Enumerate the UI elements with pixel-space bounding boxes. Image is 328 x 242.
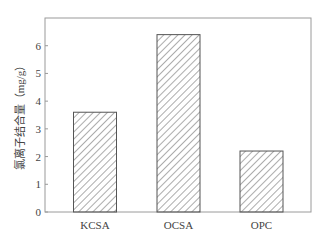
y-axis-ticks: 0123456 (36, 40, 49, 218)
y-tick-label: 1 (36, 178, 42, 190)
y-tick-label: 6 (36, 40, 42, 52)
y-tick-label: 5 (36, 67, 42, 79)
bar-chart: 0123456 KCSAOCSAOPC 氯离子结合量（mg/g） (0, 0, 328, 242)
y-tick-label: 3 (36, 123, 42, 135)
y-tick-label: 0 (36, 206, 42, 218)
bars (74, 35, 284, 212)
x-label-ocsa: OCSA (164, 219, 193, 231)
bar-opc (240, 151, 283, 212)
bar-kcsa (74, 112, 117, 212)
y-tick-label: 2 (36, 151, 42, 163)
bar-ocsa (157, 35, 200, 212)
x-label-kcsa: KCSA (80, 219, 109, 231)
x-axis-labels: KCSAOCSAOPC (80, 219, 272, 231)
x-label-opc: OPC (251, 219, 272, 231)
y-axis-title: 氯离子结合量（mg/g） (13, 60, 26, 171)
y-tick-label: 4 (36, 95, 42, 107)
